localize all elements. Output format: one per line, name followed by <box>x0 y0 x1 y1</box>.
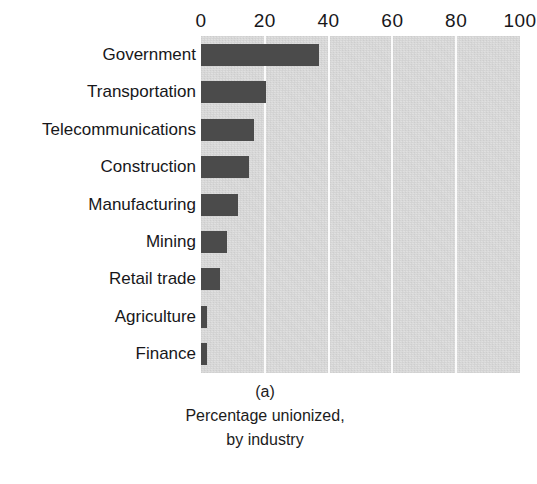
category-label: Construction <box>0 157 196 177</box>
bar-row <box>201 306 520 328</box>
category-label: Manufacturing <box>0 195 196 215</box>
bar-row <box>201 44 520 66</box>
bar-row <box>201 231 520 253</box>
bar-series <box>201 36 520 373</box>
plot-area <box>201 36 520 373</box>
x-tick-label: 60 <box>381 9 403 33</box>
x-tick-label: 100 <box>503 9 536 33</box>
caption-line-2: by industry <box>0 428 530 452</box>
x-axis-tick-labels: 020406080100 <box>0 9 530 33</box>
bar-row <box>201 268 520 290</box>
category-axis-labels: GovernmentTransportationTelecommunicatio… <box>0 36 196 373</box>
caption-line-1: Percentage unionized, <box>0 404 530 428</box>
bar <box>201 81 266 103</box>
x-tick-label: 80 <box>445 9 467 33</box>
category-label: Transportation <box>0 82 196 102</box>
x-tick-label: 0 <box>195 9 206 33</box>
figure-caption: (a) Percentage unionized, by industry <box>0 379 530 452</box>
category-label: Mining <box>0 232 196 252</box>
category-label: Finance <box>0 344 196 364</box>
x-tick-label: 40 <box>318 9 340 33</box>
bar-row <box>201 81 520 103</box>
category-label: Telecommunications <box>0 120 196 140</box>
caption-panel-id: (a) <box>0 379 530 404</box>
category-label: Agriculture <box>0 307 196 327</box>
bar <box>201 268 220 290</box>
bar-row <box>201 119 520 141</box>
bar-row <box>201 194 520 216</box>
bar <box>201 119 254 141</box>
page-footer-fragment <box>0 468 530 484</box>
bar <box>201 343 207 365</box>
bar <box>201 194 238 216</box>
bar <box>201 44 319 66</box>
bar <box>201 306 207 328</box>
bar-row <box>201 343 520 365</box>
category-label: Retail trade <box>0 269 196 289</box>
bar <box>201 231 227 253</box>
bar <box>201 156 249 178</box>
category-label: Government <box>0 45 196 65</box>
x-tick-label: 20 <box>254 9 276 33</box>
bar-row <box>201 156 520 178</box>
